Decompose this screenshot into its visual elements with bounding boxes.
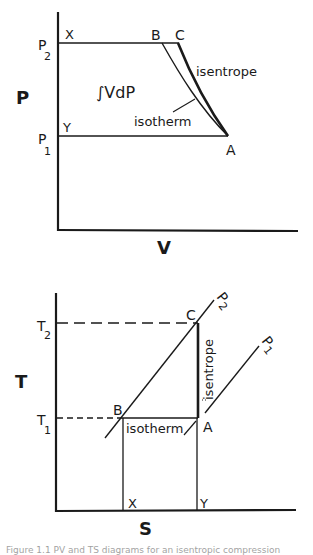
ts-isobar-p1-label: P1 [255, 333, 280, 357]
ts-isentrope-label: isentrope [201, 339, 216, 400]
pv-point-a: A [226, 142, 236, 158]
ts-diagram: T S T 2 T 1 C B A X Y P2 P1 isentrope is… [15, 289, 296, 539]
ts-point-y: Y [199, 496, 208, 511]
pv-point-x: X [65, 27, 74, 42]
pv-point-c: C [175, 27, 185, 43]
pv-y-axis-label: P [16, 87, 29, 108]
pv-isentrope-label: isentrope [196, 64, 257, 79]
ts-t2-sub: 2 [44, 329, 51, 342]
ts-x-axis [55, 510, 296, 511]
ts-isotherm-leader [184, 421, 196, 435]
thermodynamic-diagrams: P V P 2 P 1 X Y B C A ∫VdP isentrope iso… [0, 0, 313, 555]
ts-point-c: C [186, 307, 196, 323]
ts-point-b: B [113, 402, 123, 418]
pv-x-axis [57, 230, 298, 231]
ts-point-a: A [203, 419, 213, 435]
ts-t1-sub: 1 [44, 424, 51, 437]
ts-isotherm-label: isotherm [126, 421, 183, 436]
pv-isotherm-label: isotherm [134, 114, 191, 129]
pv-point-y: Y [62, 120, 71, 135]
pv-integral-label: ∫VdP [96, 83, 135, 102]
pv-x-axis-label: V [157, 237, 171, 258]
pv-point-b: B [151, 27, 161, 43]
ts-x-axis-label: S [139, 518, 152, 539]
pv-p2-sub: 2 [44, 50, 51, 63]
ts-point-x: X [128, 496, 137, 511]
pv-p1-sub: 1 [44, 145, 51, 158]
pv-isotherm-leader [173, 99, 195, 112]
ts-isobar-p2-label: P2 [210, 289, 235, 313]
figure-caption: Figure 1.1 PV and TS diagrams for an ise… [6, 545, 280, 555]
pv-diagram: P V P 2 P 1 X Y B C A ∫VdP isentrope iso… [16, 12, 298, 258]
ts-y-axis-label: T [15, 371, 28, 392]
